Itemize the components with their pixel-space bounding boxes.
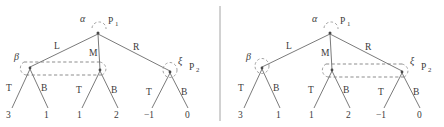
action-label-B-3-left-panel: B [181,87,187,97]
action-label-T-1-right-panel: T [238,83,244,93]
action-label-T-2-right-panel: T [308,85,314,95]
label-player-2-left-panel: P [189,62,194,72]
singleton-oval-left-node-right-panel [255,59,269,74]
root-oval [92,22,106,29]
edge-left-node-T-right-panel [244,69,262,108]
edge-middle-node-T [82,71,100,108]
edge-root-to-right-node-right-panel [330,34,402,71]
action-label-T-3-left-panel: T [146,87,152,97]
left-game-tree: α β ξ P 1 P 2 L M R T B T B T B 3 1 1 2 … [6,13,200,120]
node-middle [99,69,102,72]
label-player-2-sub-left-panel: 2 [196,66,200,73]
payoff-3-right-panel: 1 [309,110,314,120]
infoset-cap-left-right-panel [322,64,328,77]
node-root-right-panel [329,32,332,35]
payoff-3-left-panel: 1 [77,110,82,120]
edge-root-to-right-node [98,34,170,71]
figure-canvas: α β ξ P 1 P 2 L M R T B T B T B 3 1 1 2 … [0,0,444,127]
payoff-5-right-panel: −1 [376,110,386,120]
node-left [29,67,32,70]
singleton-oval-right-node [163,63,177,78]
payoff-2-right-panel: 1 [276,110,281,120]
label-player-1-sub-right-panel: 1 [347,20,350,27]
payoff-6-right-panel: 0 [417,110,422,120]
payoff-1-right-panel: 3 [238,110,243,120]
root-oval-right-panel [324,22,338,29]
label-xi-right-panel: ξ [410,55,415,67]
right-game-tree: α β ξ P 1 P 2 L M R T B T B T B 3 1 1 2 … [238,13,432,120]
action-label-T-2-left-panel: T [76,85,82,95]
payoff-6-left-panel: 0 [185,110,190,120]
action-label-B-3-right-panel: B [413,87,419,97]
label-player-1-left-panel: P [108,16,113,26]
node-right-right-panel [401,71,404,74]
action-label-T-1-left-panel: T [6,83,12,93]
label-player-2-sub-right-panel: 2 [428,66,432,73]
action-label-M-right-panel: M [321,48,330,58]
game-tree-figure: α β ξ P 1 P 2 L M R T B T B T B 3 1 1 2 … [0,0,444,127]
action-label-B-1-right-panel: B [273,83,279,93]
label-beta-left-panel: β [13,51,19,62]
action-label-L-left-panel: L [54,41,60,51]
action-label-R-right-panel: R [365,42,372,52]
action-label-B-1-left-panel: B [41,83,47,93]
label-beta-right-panel: β [245,51,251,62]
payoff-5-left-panel: −1 [144,110,154,120]
label-player-2-right-panel: P [421,62,426,72]
edge-root-to-middle-node-right-panel [330,34,332,70]
edge-root-to-left-node-right-panel [262,34,330,67]
payoff-2-left-panel: 1 [44,110,49,120]
edge-right-node-T [152,73,170,108]
infoset-cap-left [20,62,26,75]
action-label-T-3-right-panel: T [378,87,384,97]
edge-right-node-T-right-panel [384,73,402,108]
action-label-L-right-panel: L [286,41,292,51]
label-alpha-left-panel: α [80,13,86,24]
node-root [97,32,100,35]
node-middle-right-panel [331,69,334,72]
payoff-4-right-panel: 2 [346,110,351,120]
edge-middle-node-T-right-panel [314,71,332,108]
action-label-M-left-panel: M [89,48,98,58]
label-player-1-right-panel: P [340,16,345,26]
action-label-R-left-panel: R [133,42,140,52]
edge-root-to-middle-node [98,34,100,70]
label-player-1-sub-left-panel: 1 [115,20,118,27]
action-label-B-2-left-panel: B [111,85,117,95]
action-label-B-2-right-panel: B [343,85,349,95]
label-xi-left-panel: ξ [178,55,183,67]
label-alpha-right-panel: α [312,13,318,24]
payoff-4-left-panel: 2 [114,110,119,120]
node-left-right-panel [261,67,264,70]
node-right [169,71,172,74]
payoff-1-left-panel: 3 [6,110,11,120]
